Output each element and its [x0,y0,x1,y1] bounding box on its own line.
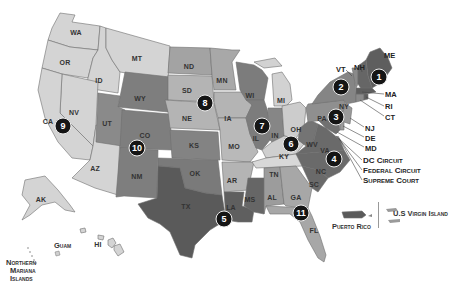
label-ak: AK [36,196,47,203]
label-id: ID [95,77,102,84]
label-mi: MI [277,97,285,104]
label-pa: PA [317,115,327,122]
circuit-pin-10[interactable]: 10 [129,140,146,157]
label-northern-mariana-3: Islands [10,274,33,283]
label-wv: WV [306,141,318,148]
label-ms: MS [245,196,256,203]
label-sd: SD [182,87,192,94]
circuit-pin-7[interactable]: 7 [254,118,271,135]
label-al: AL [267,194,277,201]
label-tx: TX [181,203,190,210]
callout-supreme-court: Supreme Court [363,176,419,185]
label-wa: WA [70,29,82,36]
state-ak [22,176,75,220]
judicial-circuits-map: WA OR ID MT NV CA AZ WY UT CO NM KS OK N… [0,0,456,283]
callout-nj: NJ [365,124,375,133]
state-co [120,110,172,150]
circuit-pin-3[interactable]: 3 [328,109,345,126]
callout-de: DE [365,134,375,143]
label-nd: ND [184,63,195,70]
label-ar: AR [227,177,238,184]
label-nm: NM [131,173,142,180]
label-ca: CA [43,118,54,125]
callout-md: MD [365,144,377,153]
label-fl: FL [310,227,319,234]
label-ks: KS [189,142,199,149]
label-ut: UT [102,120,112,127]
territory-divider [378,202,379,228]
circuit-pin-4[interactable]: 4 [326,151,343,168]
circuit-pin-5[interactable]: 5 [216,211,233,228]
label-or: OR [60,59,71,66]
label-co: CO [140,132,151,139]
state-mn [210,48,240,90]
label-la: LA [226,204,236,211]
label-hi: HI [94,241,101,248]
state-nd [168,47,212,75]
circuit-pin-9[interactable]: 9 [55,118,72,135]
label-az: AZ [90,165,100,172]
callout-ma: MA [385,90,397,99]
state-wy [118,72,170,112]
label-wy: WY [134,95,146,102]
guam-shape [55,251,60,256]
callout-nh: NH [354,63,365,72]
state-hi [80,228,124,256]
callout-me: ME [384,51,395,60]
label-us-virgin-island: U.S Virgin Island [393,209,448,218]
callout-dc-circuit: DC Circuit [363,156,403,165]
circuit-pin-8[interactable]: 8 [197,95,214,112]
puerto-rico-shape [342,211,366,218]
label-oh: OH [291,126,302,133]
callout-vt: VT [336,65,346,74]
label-ok: OK [190,170,201,177]
label-in: IN [271,132,278,139]
label-guam: Guam [54,241,71,250]
label-il: IL [253,135,260,142]
circuit-pin-2[interactable]: 2 [333,79,350,96]
label-ny: NY [339,103,349,110]
circuit-pin-11[interactable]: 11 [293,205,310,222]
circuit-pin-6[interactable]: 6 [283,136,300,153]
label-sc: SC [309,181,319,188]
callout-ri: RI [385,102,393,111]
label-ne: NE [182,115,192,122]
label-nc: NC [316,168,327,175]
label-mt: MT [132,55,143,62]
label-puerto-rico: Puerto Rico [332,222,371,231]
label-mo: MO [228,143,240,150]
label-ky: KY [279,153,289,160]
label-wi: WI [246,92,255,99]
circuit-pin-1[interactable]: 1 [371,69,388,86]
callout-federal-circuit: Federal Circuit [363,166,421,175]
label-tn: TN [269,171,279,178]
label-nv: NV [69,109,79,116]
label-mn: MN [216,77,227,84]
label-ga: GA [291,194,302,201]
callout-ct: CT [385,113,395,122]
state-ct [356,94,364,102]
label-ia: IA [224,115,231,122]
